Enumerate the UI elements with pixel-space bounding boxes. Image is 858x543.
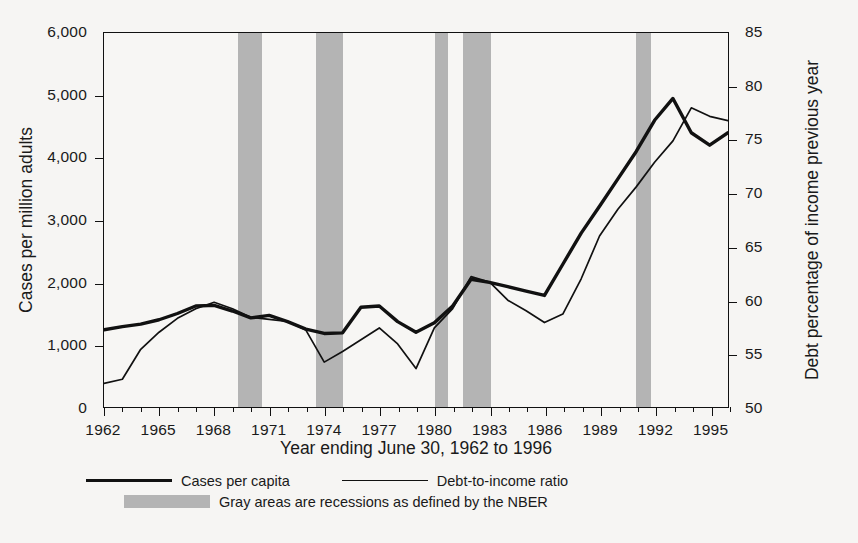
legend-label-recession: Gray areas are recessions as defined by … (219, 494, 548, 510)
legend-row-recession: Gray areas are recessions as defined by … (86, 491, 726, 512)
x-axis-tick-label: 1980 (417, 421, 452, 439)
x-axis-tick-label: 1986 (527, 421, 562, 439)
y-axis-left-tick-label: 4,000 (47, 148, 87, 166)
x-axis-minor-tick (638, 407, 639, 412)
y-axis-left-tick-label: 1,000 (47, 336, 87, 354)
y-axis-right-tick (728, 194, 737, 195)
y-axis-right-tick (728, 140, 737, 141)
x-axis-tick-label: 1983 (472, 421, 507, 439)
x-axis-minor-tick (527, 407, 528, 412)
x-axis-minor-tick (417, 407, 418, 412)
legend-swatch-cases (86, 479, 172, 482)
x-axis-minor-tick (620, 407, 621, 412)
x-axis-tick (601, 407, 602, 416)
x-axis-tick (270, 407, 271, 416)
y-axis-left-title-text: Cases per million adults (16, 127, 37, 313)
y-axis-right-tick (728, 355, 737, 356)
y-axis-right-title: Debt percentage of income previous year (800, 32, 824, 408)
x-axis-minor-tick (178, 407, 179, 412)
line-cases-per-capita (104, 98, 728, 333)
y-axis-right-tick-label: 70 (745, 184, 763, 202)
legend-swatch-recession (124, 495, 210, 508)
x-axis-tick-label: 1965 (141, 421, 176, 439)
x-axis-minor-tick (509, 407, 510, 412)
y-axis-left-tick (95, 221, 104, 222)
y-axis-right-tick-label: 85 (745, 23, 763, 41)
x-axis-minor-tick (454, 407, 455, 412)
x-axis-minor-tick (122, 407, 123, 412)
x-axis-tick (104, 407, 105, 416)
x-axis-minor-tick (362, 407, 363, 412)
y-axis-right-tick-label: 50 (745, 399, 763, 417)
x-axis-title: Year ending June 30, 1962 to 1996 (103, 438, 729, 459)
y-axis-right-tick (728, 302, 737, 303)
chart-figure: Cases per million adults Debt percentage… (0, 0, 858, 543)
series-lines (104, 33, 728, 407)
line-debt-to-income (104, 108, 728, 384)
x-axis-tick (159, 407, 160, 416)
x-axis-minor-tick (307, 407, 308, 412)
x-axis-minor-tick (343, 407, 344, 412)
y-axis-right-tick-label: 80 (745, 77, 763, 95)
y-axis-left-tick-label: 5,000 (47, 86, 87, 104)
x-axis-tick (435, 407, 436, 416)
x-axis-tick (380, 407, 381, 416)
y-axis-left-tick-label: 6,000 (47, 23, 87, 41)
y-axis-left-tick-label: 2,000 (47, 274, 87, 292)
x-axis-minor-tick (288, 407, 289, 412)
x-axis-tick-label: 1989 (582, 421, 617, 439)
x-axis-minor-tick (583, 407, 584, 412)
y-axis-left-tick-label: 3,000 (47, 211, 87, 229)
x-axis-minor-tick (564, 407, 565, 412)
x-axis-tick (712, 407, 713, 416)
legend-row-series: Cases per capita Debt-to-income ratio (86, 470, 726, 491)
x-axis-minor-tick (472, 407, 473, 412)
y-axis-left-tick (95, 96, 104, 97)
chart-legend: Cases per capita Debt-to-income ratio Gr… (86, 470, 726, 512)
x-axis-tick-label: 1995 (693, 421, 728, 439)
x-axis-tick-label: 1962 (85, 421, 120, 439)
legend-label-debt: Debt-to-income ratio (437, 473, 568, 489)
y-axis-right-tick-label: 65 (745, 238, 763, 256)
y-axis-left-tick (95, 158, 104, 159)
x-axis-tick-label: 1968 (196, 421, 231, 439)
x-axis-tick-label: 1992 (638, 421, 673, 439)
x-axis-minor-tick (399, 407, 400, 412)
x-axis-tick (491, 407, 492, 416)
legend-label-cases: Cases per capita (181, 473, 290, 489)
y-axis-left-tick (95, 284, 104, 285)
y-axis-right-tick-label: 60 (745, 292, 763, 310)
y-axis-right-tick-label: 75 (745, 130, 763, 148)
x-axis-minor-tick (675, 407, 676, 412)
y-axis-left-tick-label: 0 (78, 399, 87, 417)
x-axis-minor-tick (730, 407, 731, 412)
x-axis-tick-label: 1974 (306, 421, 341, 439)
x-axis-minor-tick (196, 407, 197, 412)
y-axis-right-tick-label: 55 (745, 345, 763, 363)
x-axis-minor-tick (233, 407, 234, 412)
y-axis-right-tick (728, 248, 737, 249)
y-axis-right-tick (728, 87, 737, 88)
x-axis-minor-tick (693, 407, 694, 412)
x-axis-tick-label: 1977 (362, 421, 397, 439)
y-axis-left-tick (95, 346, 104, 347)
y-axis-left-title: Cases per million adults (14, 32, 38, 408)
x-axis-tick-label: 1971 (251, 421, 286, 439)
plot-area (103, 32, 729, 408)
y-axis-right-title-text: Debt percentage of income previous year (802, 60, 823, 380)
x-axis-tick (656, 407, 657, 416)
x-axis-tick (546, 407, 547, 416)
x-axis-tick (325, 407, 326, 416)
legend-swatch-debt (342, 480, 428, 481)
x-axis-tick (214, 407, 215, 416)
x-axis-minor-tick (141, 407, 142, 412)
x-axis-minor-tick (251, 407, 252, 412)
